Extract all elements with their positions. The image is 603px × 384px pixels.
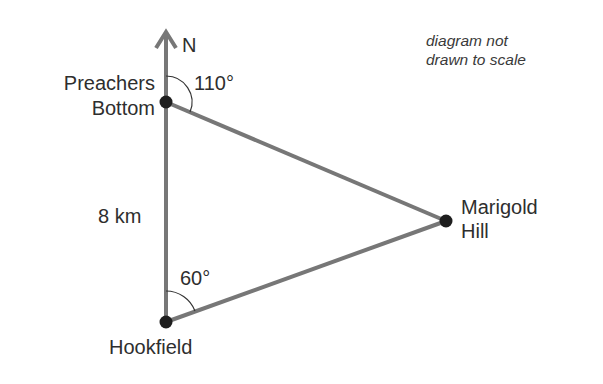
angle-label-60: 60° xyxy=(180,267,210,290)
label-preachers-line2: Bottom xyxy=(92,97,155,120)
point-hookfield xyxy=(160,316,173,329)
point-preachers-bottom xyxy=(160,96,173,109)
label-hookfield: Hookfield xyxy=(109,336,192,359)
note-line-2: drawn to scale xyxy=(426,50,526,69)
label-preachers-line1: Preachers xyxy=(64,72,155,95)
point-marigold-hill xyxy=(440,215,453,228)
note-line-1: diagram not xyxy=(426,31,508,50)
label-marigold-line1: Marigold xyxy=(461,196,538,219)
label-marigold-line2: Hill xyxy=(461,220,489,243)
distance-label: 8 km xyxy=(98,205,141,228)
north-label: N xyxy=(182,34,196,57)
angle-label-110: 110° xyxy=(194,72,234,95)
angle-arc-60 xyxy=(166,291,195,311)
edge-preachers-marigold xyxy=(166,102,446,221)
